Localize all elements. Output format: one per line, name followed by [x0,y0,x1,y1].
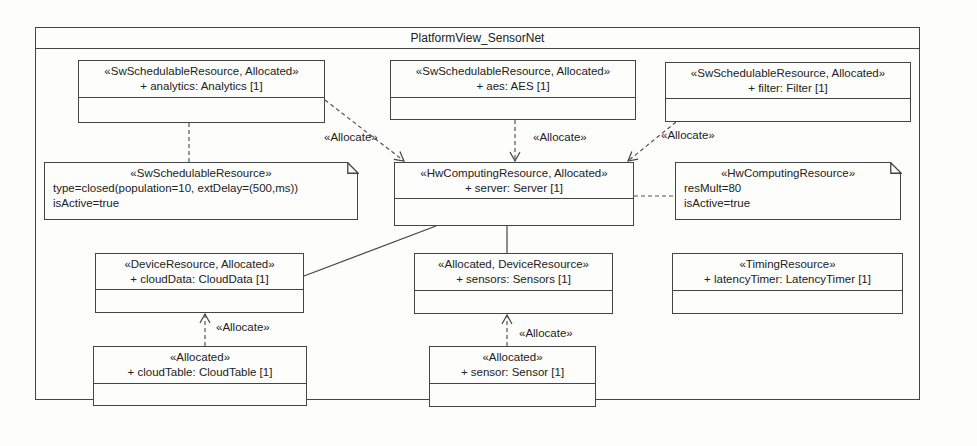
part-name: + cloudData: CloudData [1] [96,272,303,287]
note-line: type=closed(population=10, extDelay=(500… [53,181,349,196]
part-stereotype: «DeviceResource, Allocated» [96,257,303,272]
part-cloudtable[interactable]: «Allocated» + cloudTable: CloudTable [1] [93,346,307,406]
part-latencytimer[interactable]: «TimingResource» + latencyTimer: Latency… [672,253,903,314]
part-name: + filter: Filter [1] [666,81,910,96]
note-line: isActive=true [684,196,892,211]
note-stereotype: «HwComputingResource» [684,166,892,181]
part-server[interactable]: «HwComputingResource, Allocated» + serve… [394,162,634,226]
part-clouddata[interactable]: «DeviceResource, Allocated» + cloudData:… [95,253,304,313]
note-fold-icon [347,162,359,174]
part-name: + cloudTable: CloudTable [1] [94,365,306,380]
part-stereotype: «HwComputingResource, Allocated» [395,166,633,181]
part-analytics[interactable]: «SwSchedulableResource, Allocated» + ana… [78,60,325,123]
diagram-title: PlatformView_SensorNet [36,28,919,49]
allocate-label: «Allocate» [661,129,715,141]
note-line: resMult=80 [684,181,892,196]
part-name: + sensor: Sensor [1] [430,365,595,380]
part-stereotype: «Allocated» [94,350,306,365]
part-stereotype: «SwSchedulableResource, Allocated» [79,64,324,79]
allocate-label: «Allocate» [216,321,270,333]
note-fold-icon [890,162,902,174]
part-name: + server: Server [1] [395,181,633,196]
note-line: isActive=true [53,196,349,211]
allocate-label: «Allocate» [519,327,573,339]
allocate-label: «Allocate» [324,131,378,143]
note-hwcomputing[interactable]: «HwComputingResource» resMult=80 isActiv… [675,162,901,220]
part-name: + sensors: Sensors [1] [415,272,612,287]
part-stereotype: «SwSchedulableResource, Allocated» [391,64,635,79]
part-stereotype: «Allocated, DeviceResource» [415,257,612,272]
part-name: + aes: AES [1] [391,79,635,94]
part-stereotype: «TimingResource» [673,257,902,272]
note-stereotype: «SwSchedulableResource» [53,166,349,181]
part-sensors[interactable]: «Allocated, DeviceResource» + sensors: S… [414,253,613,314]
part-sensor[interactable]: «Allocated» + sensor: Sensor [1] [429,346,596,407]
part-aes[interactable]: «SwSchedulableResource, Allocated» + aes… [390,60,636,120]
allocate-label: «Allocate» [533,131,587,143]
part-filter[interactable]: «SwSchedulableResource, Allocated» + fil… [665,62,911,122]
part-stereotype: «SwSchedulableResource, Allocated» [666,66,910,81]
part-name: + analytics: Analytics [1] [79,79,324,94]
part-name: + latencyTimer: LatencyTimer [1] [673,272,902,287]
part-stereotype: «Allocated» [430,350,595,365]
note-swschedulable[interactable]: «SwSchedulableResource» type=closed(popu… [44,162,358,220]
